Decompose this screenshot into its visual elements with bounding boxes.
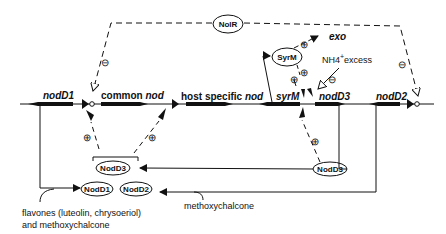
syrM-expression-arrowhead — [263, 51, 271, 60]
gene-nodD3-arrow — [315, 102, 345, 106]
positive-mark-common: ⊕ — [83, 132, 91, 143]
flavones-signal-curve — [40, 189, 54, 202]
negative-mark-nolR-left: ⊖ — [101, 57, 109, 68]
label-nodD3: nodD3 — [319, 91, 351, 102]
nodD1-expression-line — [40, 105, 80, 188]
gene-common-nod-arrow — [101, 102, 148, 106]
label-nh4-excess: NH4+excess — [322, 53, 373, 65]
positive-mark-syrM-nodD3: ⊕ — [311, 136, 319, 147]
nod-gene-regulation-diagram: nodD1 common nod host specific nod syrM … — [0, 0, 446, 234]
label-host-specific-nod: host specific nod — [181, 91, 264, 102]
negative-mark-nolR-right: ⊖ — [398, 59, 406, 70]
gene-syrM-arrow — [259, 102, 300, 106]
nodD-activation-common-line — [91, 122, 99, 149]
methoxychalcone-signal-curve — [194, 192, 203, 200]
nodD-activation-host-arrowhead — [158, 108, 166, 120]
label-NodD2: NodD2 — [123, 185, 149, 194]
label-NodD1: NodD1 — [84, 185, 110, 194]
label-syrM: syrM — [276, 91, 300, 102]
positive-mark-host: ⊕ — [148, 132, 156, 143]
promoter-arrowhead-common — [82, 99, 89, 109]
nodD2-expression-line — [160, 105, 376, 192]
gene-nodD1-arrow — [28, 102, 73, 106]
positive-mark-exo: ⊕ — [300, 39, 308, 50]
nodD3-to-complex-arrow — [140, 168, 313, 169]
label-common-nod: common nod — [101, 90, 165, 101]
operator-circle-common — [90, 102, 95, 107]
label-SyrM: SyrM — [277, 53, 297, 62]
promoter-arrowhead-nodD2 — [407, 99, 414, 109]
nolR-repression-path-left — [93, 23, 212, 91]
gene-nodD2-arrow — [369, 102, 400, 106]
label-NolR: NolR — [219, 20, 238, 29]
positive-mark-syrM-1: ⊕ — [300, 67, 308, 78]
gene-host-specific-nod-arrow — [186, 102, 233, 106]
syrM-activation-arrowhead-1 — [301, 89, 305, 98]
label-NodD3-complex: NodD3 — [100, 164, 126, 173]
operator-circle-nodD2 — [415, 102, 420, 107]
positive-mark-syrM-2: ⊕ — [290, 74, 298, 85]
label-exo: exo — [329, 31, 346, 42]
label-flavones-line2: and methoxychalcone — [22, 220, 110, 230]
negative-mark-nh4: ⊖ — [328, 74, 336, 85]
nodD-activation-common-arrowhead — [86, 110, 94, 121]
label-flavones-line1: flavones (luteolin, chrysoeriol) — [22, 208, 141, 218]
label-methoxychalcone: methoxychalcone — [184, 201, 254, 211]
syrM-activation-arrowhead-2 — [307, 88, 313, 97]
label-nodD1: nodD1 — [43, 90, 75, 101]
label-nodD2: nodD2 — [376, 91, 408, 102]
nodD3-expression-line — [339, 105, 347, 169]
nodD-bracket — [93, 157, 138, 161]
nodD3-activation-syrM-arrowhead — [299, 107, 305, 118]
promoter-arrowhead-host — [172, 99, 179, 109]
syrM-expression-line — [263, 56, 272, 102]
